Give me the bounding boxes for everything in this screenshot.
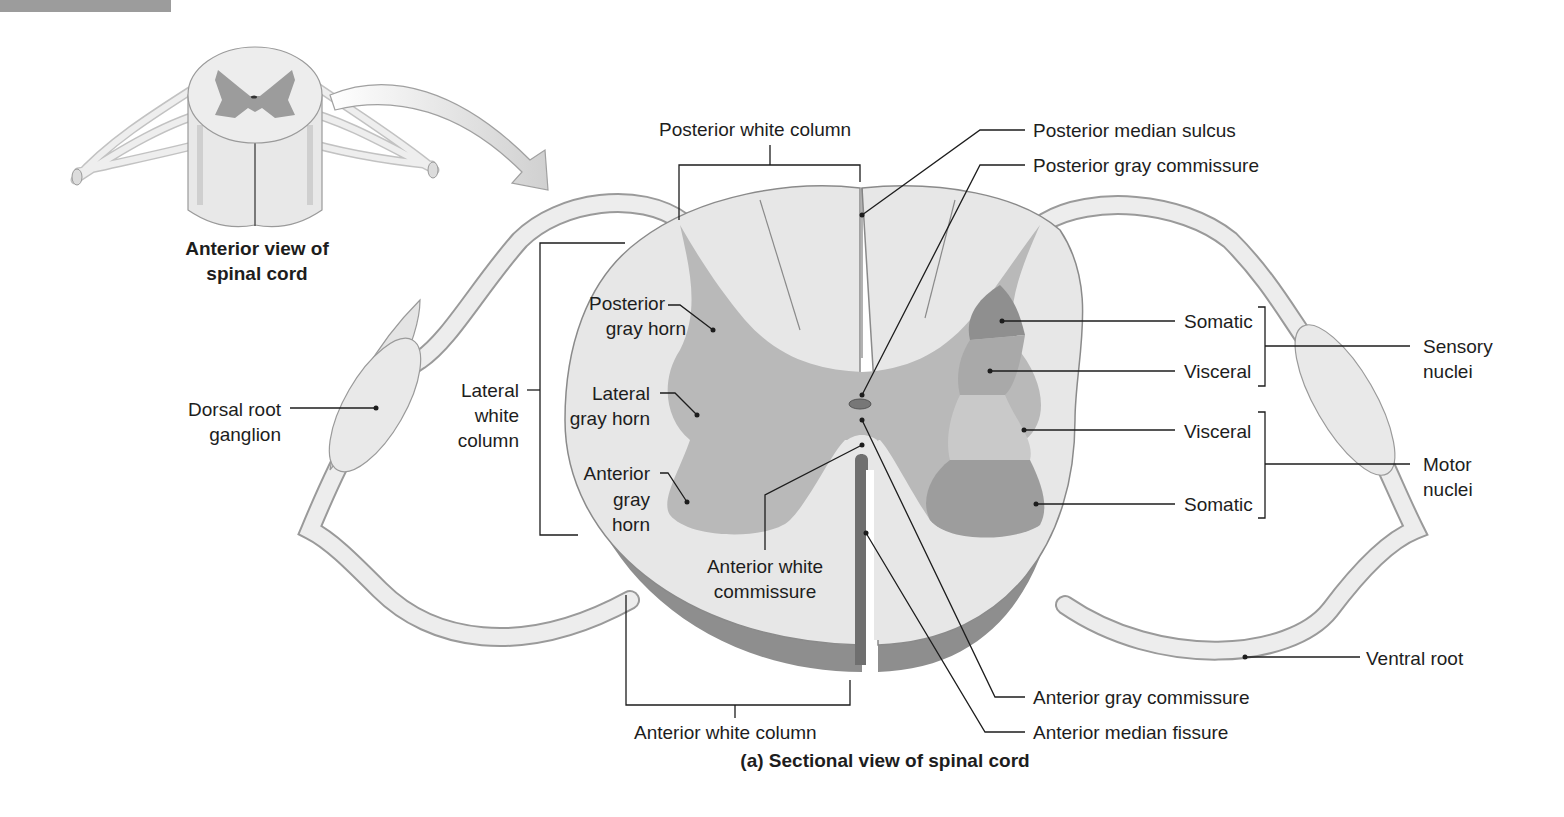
label-anterior-white-commissure-2: commissure [695,579,835,604]
label-anterior-gray-horn-2: gray [560,487,650,512]
label-anterior-median-fissure: Anterior median fissure [1033,720,1228,745]
label-anterior-white-commissure-1: Anterior white [695,554,835,579]
label-anterior-gray-horn-3: horn [560,512,650,537]
figure-caption: (a) Sectional view of spinal cord [690,748,1080,773]
label-anterior-white-column: Anterior white column [634,720,817,745]
label-posterior-median-sulcus: Posterior median sulcus [1033,118,1236,143]
label-sensory-nuclei-2: nuclei [1423,359,1473,384]
label-posterior-gray-horn-1: Posterior [560,291,665,316]
label-posterior-gray-horn-2: gray horn [560,316,686,341]
label-visceral-motor: Visceral [1184,419,1251,444]
inset-caption-line1: Anterior view of [152,236,362,261]
label-visceral-sensory: Visceral [1184,359,1251,384]
inset-caption-line2: spinal cord [152,261,362,286]
inset-anterior-view [72,47,438,227]
label-posterior-gray-commissure: Posterior gray commissure [1033,153,1259,178]
spinal-cord-diagram: Anterior view of spinal cord Posterior w… [0,0,1564,817]
label-somatic-sensory: Somatic [1184,309,1253,334]
label-lateral-gray-horn-1: Lateral [560,381,650,406]
label-motor-nuclei-2: nuclei [1423,477,1473,502]
label-dorsal-root-ganglion-1: Dorsal root [150,397,281,422]
label-anterior-gray-horn-1: Anterior [560,461,650,486]
label-lateral-gray-horn-2: gray horn [555,406,650,431]
label-motor-nuclei-1: Motor [1423,452,1472,477]
label-ventral-root: Ventral root [1366,646,1463,671]
label-lateral-white-column-3: column [430,428,519,453]
label-dorsal-root-ganglion-2: ganglion [150,422,281,447]
label-lateral-white-column-1: Lateral [430,378,519,403]
label-posterior-white-column: Posterior white column [659,117,851,142]
label-somatic-motor: Somatic [1184,492,1253,517]
label-lateral-white-column-2: white [430,403,519,428]
label-anterior-gray-commissure: Anterior gray commissure [1033,685,1249,710]
label-sensory-nuclei-1: Sensory [1423,334,1493,359]
